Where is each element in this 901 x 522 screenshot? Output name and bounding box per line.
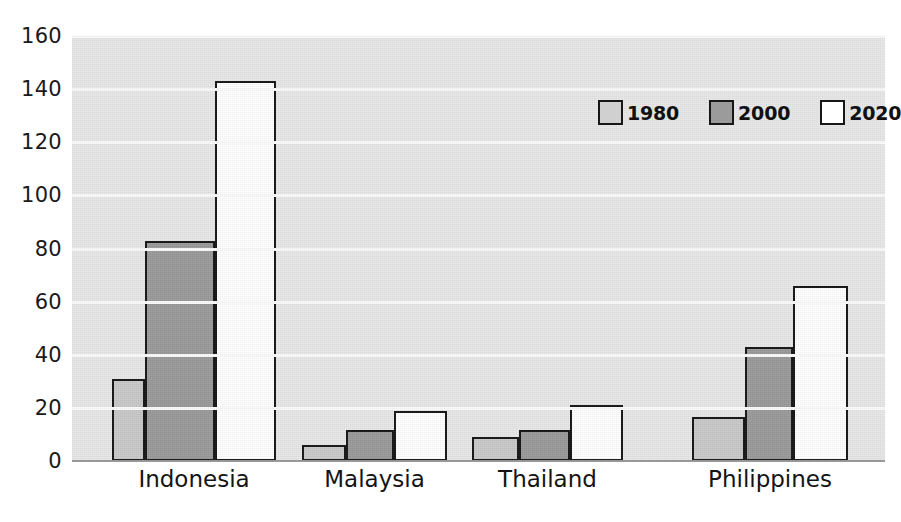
y-axis-tick-label: 80 <box>4 237 62 261</box>
legend-label-2020: 2020 <box>849 102 901 124</box>
legend-swatch-icon-2000 <box>709 100 734 125</box>
x-axis-label-indonesia: Indonesia <box>138 466 249 492</box>
gridline <box>72 354 885 357</box>
y-axis-tick-label: 100 <box>4 183 62 207</box>
x-axis-label-malaysia: Malaysia <box>324 466 425 492</box>
y-axis-tick-label: 140 <box>4 77 62 101</box>
bar-philippines-2000 <box>745 347 793 461</box>
legend-label-1980: 1980 <box>627 102 679 124</box>
legend-swatch-icon-1980 <box>598 100 623 125</box>
y-axis-tick-label: 120 <box>4 130 62 154</box>
legend-item-1980: 1980 <box>598 100 679 125</box>
y-axis-tick-label: 0 <box>4 449 62 473</box>
y-axis-tick-label: 20 <box>4 396 62 420</box>
gridline <box>72 35 885 38</box>
bar-indonesia-2000 <box>145 241 215 461</box>
x-axis-labels: IndonesiaMalaysiaThailandPhilippines <box>72 466 885 506</box>
bar-thailand-1980 <box>472 437 519 461</box>
axis-baseline <box>72 460 885 462</box>
y-axis-tick-label: 60 <box>4 290 62 314</box>
chart-legend: 198020002020 <box>598 100 901 125</box>
legend-item-2020: 2020 <box>820 100 901 125</box>
gridline <box>72 141 885 144</box>
y-axis-tick-label: 40 <box>4 343 62 367</box>
gridline <box>72 301 885 304</box>
y-axis-tick-label: 160 <box>4 24 62 48</box>
bar-malaysia-2000 <box>346 430 394 461</box>
bar-malaysia-1980 <box>302 445 346 461</box>
bar-indonesia-1980 <box>112 379 145 461</box>
legend-item-2000: 2000 <box>709 100 790 125</box>
bar-indonesia-2020 <box>215 81 276 461</box>
bar-malaysia-2020 <box>394 411 447 461</box>
legend-swatch-icon-2020 <box>820 100 845 125</box>
x-axis-label-thailand: Thailand <box>498 466 597 492</box>
gridline <box>72 194 885 197</box>
gridline <box>72 88 885 91</box>
gridline <box>72 407 885 410</box>
legend-label-2000: 2000 <box>738 102 790 124</box>
bar-philippines-2020 <box>793 286 848 461</box>
y-axis: 020406080100120140160 <box>0 36 62 461</box>
bar-philippines-1980 <box>692 417 745 461</box>
bar-thailand-2020 <box>570 405 623 461</box>
gridline <box>72 248 885 251</box>
x-axis-label-philippines: Philippines <box>708 466 832 492</box>
bar-thailand-2000 <box>519 430 570 461</box>
